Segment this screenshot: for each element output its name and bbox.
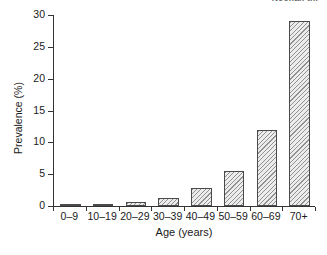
y-tick-label: 30: [33, 9, 45, 20]
y-tick: 20: [48, 79, 53, 80]
y-tick-label: 5: [39, 168, 45, 179]
clipped-caption-text: Noonan thr: [272, 0, 319, 1]
y-tick: 15: [48, 111, 53, 112]
y-tick: 25: [48, 47, 53, 48]
x-tick-label: 40–49: [186, 210, 215, 222]
x-tick-label: 20–29: [120, 210, 149, 222]
y-tick: 5: [48, 174, 53, 175]
bar: [191, 188, 211, 206]
x-tick-label: 70+: [290, 210, 308, 222]
x-tick-label: 60–69: [251, 210, 280, 222]
x-tick-label: 30–39: [153, 210, 182, 222]
bar: [60, 204, 80, 206]
bar-chart-figure: Noonan thr Prevalence (%) 051015202530 0…: [0, 0, 327, 255]
bar: [158, 198, 178, 206]
y-tick: 30: [48, 15, 53, 16]
bar: [224, 171, 244, 206]
x-tick-label: 50–59: [219, 210, 248, 222]
bar: [93, 204, 113, 206]
x-axis-tick-labels: 0–910–1920–2930–3940–4950–5960–6970+: [53, 210, 315, 224]
y-tick-label: 15: [33, 105, 45, 116]
bar: [126, 202, 146, 206]
y-tick-label: 25: [33, 41, 45, 52]
bar: [257, 130, 277, 206]
x-tick: [315, 207, 316, 211]
y-tick: 10: [48, 142, 53, 143]
bar: [289, 21, 309, 206]
y-tick-label: 20: [33, 73, 45, 84]
y-tick-label: 0: [39, 200, 45, 211]
bar-series: [54, 15, 315, 206]
y-tick-label: 10: [33, 136, 45, 147]
y-axis-title: Prevalence (%): [12, 53, 24, 183]
plot-area: 051015202530: [53, 15, 315, 207]
x-tick-label: 10–19: [88, 210, 117, 222]
x-tick-label: 0–9: [61, 210, 79, 222]
x-axis-title: Age (years): [53, 226, 315, 238]
